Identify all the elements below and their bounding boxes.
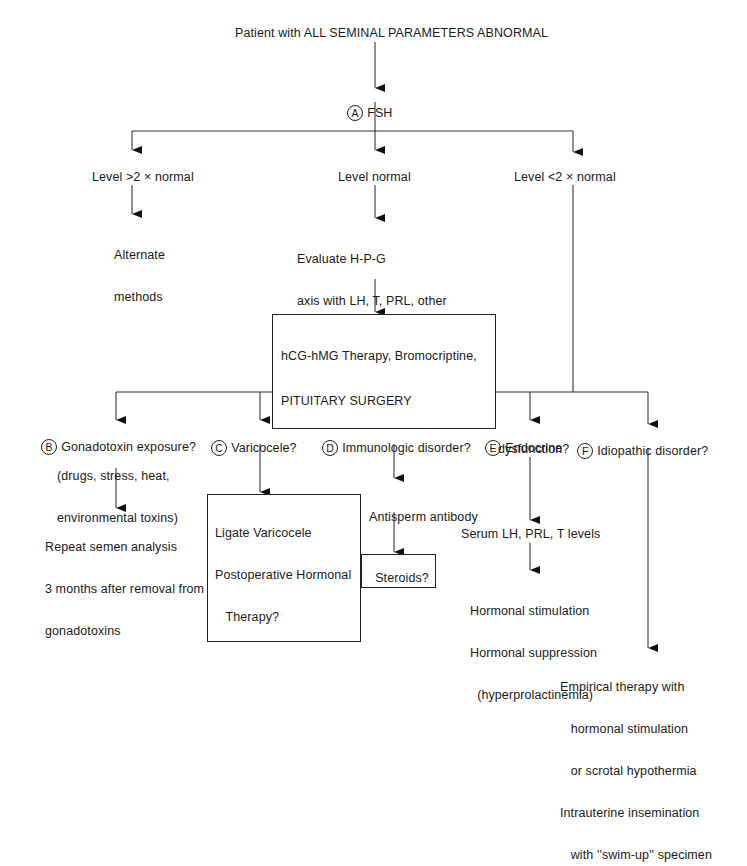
fsh-node: AFSH (340, 92, 392, 122)
text-line: 3 months after removal from (45, 582, 204, 596)
text-line: Therapy? (215, 610, 353, 624)
endocrine-node-line2: dysfunction? (498, 442, 569, 456)
immunologic-node: DImmunologic disorder? (315, 427, 471, 457)
text-line: hormonal stimulation (560, 722, 712, 736)
level-low-label: Level <2 × normal (514, 170, 616, 184)
text-line: Repeat semen analysis (45, 540, 204, 554)
text-line: Idiopathic disorder? (597, 444, 708, 458)
text-line: Postoperative Hormonal (215, 568, 353, 582)
ligate-varicocele-box: Ligate Varicocele Postoperative Hormonal… (207, 494, 361, 642)
text-line: Evaluate H-P-G (297, 252, 467, 266)
text-line: Steroids? (375, 571, 429, 585)
text-line: or scrotal hypothermia (560, 764, 712, 778)
empirical-therapy: Empirical therapy with hormonal stimulat… (560, 652, 712, 866)
marker-b-icon: B (41, 439, 57, 455)
text-line: PITUITARY SURGERY (281, 394, 487, 409)
text-line: Intrauterine insemination (560, 806, 712, 820)
level-normal-label: Level normal (338, 170, 411, 184)
marker-a-icon: A (347, 105, 363, 121)
text-line: gonadotoxins (45, 624, 204, 638)
hcg-therapy-box: hCG-hMG Therapy, Bromocriptine, PITUITAR… (272, 314, 496, 429)
text-line: axis with LH, T, PRL, other (297, 294, 467, 308)
steroids-box: Steroids? (361, 554, 436, 588)
text-line: Immunologic disorder? (342, 441, 471, 455)
text-line: (drugs, stress, heat, (57, 469, 178, 483)
idiopathic-node: FIdiopathic disorder? (570, 430, 708, 460)
marker-f-icon: F (577, 443, 593, 459)
repeat-semen-analysis: Repeat semen analysis 3 months after rem… (45, 512, 204, 652)
text-line: hCG-hMG Therapy, Bromocriptine, (281, 349, 487, 364)
text-line: Varicocele? (231, 441, 297, 455)
fsh-label: FSH (367, 106, 392, 120)
text-line: Empirical therapy with (560, 680, 712, 694)
text-line: methods (114, 290, 165, 304)
marker-c-icon: C (211, 440, 227, 456)
text-line: with ''swim-up'' specimen (560, 848, 712, 862)
text-line: Alternate (114, 248, 165, 262)
text-line: Antisperm antibody (369, 510, 478, 524)
root-node: Patient with ALL SEMINAL PARAMETERS ABNO… (235, 26, 548, 40)
varicocele-node: CVaricocele? (204, 427, 297, 457)
text-line: Hormonal stimulation (470, 604, 597, 618)
alternate-methods: Alternate methods (114, 220, 165, 318)
marker-d-icon: D (322, 440, 338, 456)
text-line: Ligate Varicocele (215, 526, 353, 540)
serum-levels: Serum LH, PRL, T levels (461, 527, 600, 541)
level-high-label: Level >2 × normal (92, 170, 194, 184)
